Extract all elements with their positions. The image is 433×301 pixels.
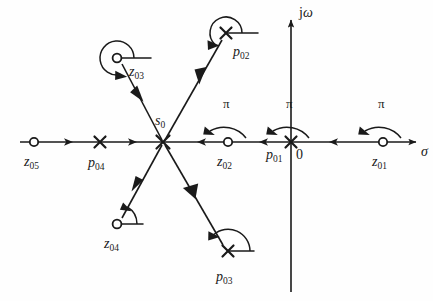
pi-arc-arrow-z01 — [358, 127, 370, 136]
test-point-label: s0 — [155, 113, 165, 130]
label-p03-sub: 03 — [223, 276, 233, 286]
vector-p02-to-s0 — [165, 40, 222, 140]
label-z01-sub: 01 — [377, 161, 387, 171]
label-z03: z03 — [128, 64, 144, 81]
origin-label: 0 — [296, 147, 303, 162]
pi-arc-z01 — [358, 127, 401, 139]
label-p03-base: p — [215, 269, 223, 284]
real-axis-label: σ — [421, 144, 429, 159]
pi-label-z02: π — [223, 96, 230, 111]
label-z02: z02 — [216, 154, 232, 171]
zero-marker-z03[interactable] — [113, 54, 122, 63]
pi-arc-path-z02 — [210, 127, 246, 138]
label-p01-sub: 01 — [273, 154, 283, 164]
label-z05: z05 — [23, 154, 39, 171]
label-p02: p02 — [232, 44, 250, 61]
label-z03-sub: 03 — [134, 71, 144, 81]
label-z01: z01 — [371, 154, 387, 171]
zero-marker-z01[interactable] — [379, 138, 387, 146]
label-p04: p04 — [87, 155, 105, 172]
vector-arrow-z03 — [130, 86, 143, 102]
label-p01: p01 — [265, 147, 283, 164]
label-z04-sub: 04 — [109, 243, 119, 253]
zero-marker-z04[interactable] — [113, 220, 122, 229]
angle-arc-path-p02 — [210, 17, 242, 45]
zero-marker-z02[interactable] — [224, 138, 232, 146]
label-z04: z04 — [103, 236, 119, 253]
pi-arc-arrow-z02 — [203, 127, 215, 136]
label-p01-base: p — [265, 147, 273, 162]
label-p02-sub: 02 — [240, 51, 250, 61]
test-point-label-sub: 0 — [160, 120, 165, 130]
pi-label-p01: π — [286, 96, 293, 111]
pi-arc-path-z01 — [365, 127, 401, 138]
vector-arrow-p03 — [183, 184, 198, 200]
zero-marker-z05[interactable] — [30, 138, 38, 146]
label-p03: p03 — [215, 269, 233, 286]
label-p04-sub: 04 — [95, 162, 105, 172]
pole-zero-figure: σ jω 0 s0 z05 p04 z02 p01 z01 — [0, 0, 433, 301]
pi-arc-p01 — [266, 127, 309, 139]
label-p04-base: p — [87, 155, 95, 170]
label-z02-sub: 02 — [222, 161, 232, 171]
pole-zero-plot-canvas: σ jω 0 s0 z05 p04 z02 p01 z01 — [0, 0, 433, 301]
label-p02-base: p — [232, 44, 240, 59]
pi-arc-arrow-p01 — [266, 127, 278, 136]
pi-label-z01: π — [378, 96, 385, 111]
imaginary-axis-label-omega: ω — [303, 5, 313, 20]
vector-arrow-p02 — [195, 67, 207, 85]
imaginary-axis-label: jω — [298, 5, 313, 20]
label-z05-sub: 05 — [29, 161, 39, 171]
pi-arc-z02 — [203, 127, 246, 139]
